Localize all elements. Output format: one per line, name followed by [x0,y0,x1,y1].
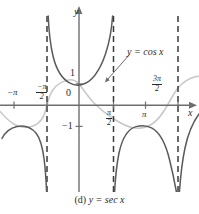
fraction-denominator: 2 [36,93,47,101]
sec-branch-far-right-upper [179,114,199,192]
cos-curve [0,76,199,128]
x-tick-label-minus-half-pi: −π 2 [36,84,47,102]
pi-glyph: π [142,109,147,119]
y-tick-label-one: 1 [70,68,75,78]
x-axis-label: x [188,108,192,118]
y-tick-label-minus-one: −1 [62,121,73,131]
x-tick-label-half-pi: π 2 [106,110,112,128]
caption-prefix: (d) [74,194,86,205]
fraction-half-pi: π 2 [106,109,112,127]
fraction-denominator: 2 [152,85,162,93]
sec-branch-right-lower [115,126,177,192]
cos-curve-annotation: y = cos x [127,47,163,57]
sec-x-plot [0,0,199,196]
y-axis-label: y [74,7,78,17]
plot-content [0,13,199,192]
fraction-numerator: π [106,109,112,117]
cos-label-leader-line [108,54,131,80]
figure-caption: (d) y = sec x [0,194,199,205]
sec-branch-left-lower [2,126,47,192]
fraction-denominator: 2 [106,119,112,127]
x-tick-label-minus-pi: −π [7,88,18,97]
fraction-numerator: 3π [152,75,162,83]
sec-branch-center-upper [48,16,112,85]
fraction-three-half-pi: 3π 2 [152,75,162,93]
x-tick-label-pi: π [142,110,147,119]
x-tick-label-three-half-pi: 3π 2 [152,76,162,94]
figure-sec-x: y x 0 1 −1 −π −π 2 π 2 π 3π 2 [0,0,199,214]
pi-glyph: π [13,87,18,97]
fraction-numerator: −π [36,83,47,91]
origin-label: 0 [66,88,71,98]
caption-equation: y = sec x [89,194,125,205]
fraction-minus-half-pi: −π 2 [36,83,47,101]
